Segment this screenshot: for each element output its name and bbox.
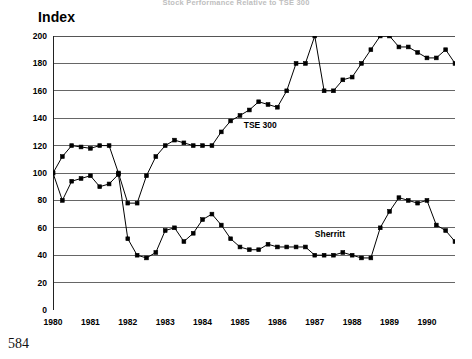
data-point: [79, 177, 83, 181]
x-axis-tick-label: 1987: [295, 317, 335, 327]
series-label-tse-300: TSE 300: [244, 120, 277, 130]
data-point: [229, 237, 233, 241]
data-point: [406, 45, 410, 49]
y-axis-tick-label: 60: [13, 223, 47, 233]
data-point: [369, 256, 373, 260]
data-point: [88, 146, 92, 150]
y-axis-tick-label: 180: [13, 58, 47, 68]
x-axis-tick-label: 1980: [33, 317, 73, 327]
data-point: [182, 240, 186, 244]
x-axis-tick-label: 1989: [370, 317, 410, 327]
data-point: [88, 174, 92, 178]
data-point: [238, 245, 242, 249]
data-point: [313, 253, 317, 257]
data-point: [416, 201, 420, 205]
page-number: 584: [8, 336, 29, 352]
data-point: [406, 199, 410, 203]
data-point: [257, 100, 261, 104]
data-point: [98, 185, 102, 189]
data-point: [70, 144, 74, 148]
data-point: [434, 223, 438, 227]
data-point: [145, 174, 149, 178]
data-point: [201, 144, 205, 148]
data-point: [191, 144, 195, 148]
data-point: [341, 78, 345, 82]
data-point: [70, 179, 74, 183]
data-point: [275, 245, 279, 249]
data-point: [210, 212, 214, 216]
data-point: [182, 141, 186, 145]
data-point: [60, 199, 64, 203]
data-point: [266, 242, 270, 246]
data-point: [117, 172, 121, 176]
plot-area: [53, 36, 455, 310]
data-point: [416, 51, 420, 55]
data-point: [107, 144, 111, 148]
y-axis-tick-label: 120: [13, 141, 47, 151]
chart-figure: Stock Performance Relative to TSE 300 In…: [0, 0, 472, 359]
data-point: [304, 62, 308, 66]
x-axis-tick-label: 1982: [108, 317, 148, 327]
series-label-sherritt: Sherritt: [315, 229, 345, 239]
data-point: [238, 114, 242, 118]
data-point: [397, 45, 401, 49]
data-point: [350, 75, 354, 79]
data-point: [107, 182, 111, 186]
data-point: [369, 48, 373, 52]
data-point: [154, 155, 158, 159]
data-point: [453, 240, 455, 244]
data-point: [201, 218, 205, 222]
data-point: [313, 36, 317, 38]
x-axis-tick-label: 1985: [220, 317, 260, 327]
y-axis-tick-label: 0: [13, 305, 47, 315]
y-axis-tick-label: 80: [13, 195, 47, 205]
data-point: [145, 256, 149, 260]
page-title: Stock Performance Relative to TSE 300: [0, 0, 472, 7]
data-point: [322, 89, 326, 93]
data-point: [53, 171, 55, 175]
y-axis-title: Index: [38, 9, 75, 25]
data-point: [247, 248, 251, 252]
data-point: [126, 201, 130, 205]
data-point: [332, 253, 336, 257]
data-point: [154, 251, 158, 255]
data-point: [285, 89, 289, 93]
y-axis-tick-label: 200: [13, 31, 47, 41]
data-point: [434, 56, 438, 60]
data-point: [378, 36, 382, 38]
data-point: [126, 237, 130, 241]
data-point: [135, 201, 139, 205]
y-axis-tick-label: 140: [13, 113, 47, 123]
data-point: [257, 248, 261, 252]
data-point: [60, 155, 64, 159]
data-point: [397, 196, 401, 200]
data-point: [388, 36, 392, 38]
x-axis-tick-label: 1981: [70, 317, 110, 327]
data-point: [294, 62, 298, 66]
x-axis-tick-label: 1988: [332, 317, 372, 327]
y-axis-tick-label: 160: [13, 86, 47, 96]
data-point: [135, 253, 139, 257]
x-axis-tick-label: 1990: [407, 317, 447, 327]
data-point: [444, 229, 448, 233]
data-point: [266, 103, 270, 107]
data-point: [210, 144, 214, 148]
data-point: [247, 108, 251, 112]
data-point: [444, 48, 448, 52]
data-point: [191, 231, 195, 235]
data-point: [79, 145, 83, 149]
data-point: [294, 245, 298, 249]
y-axis-tick-label: 20: [13, 278, 47, 288]
data-point: [453, 62, 455, 66]
data-point: [163, 144, 167, 148]
data-point: [275, 105, 279, 109]
data-point: [219, 130, 223, 134]
x-axis-tick-label: 1986: [257, 317, 297, 327]
data-point: [322, 253, 326, 257]
data-point: [163, 229, 167, 233]
data-point: [350, 253, 354, 257]
data-point: [98, 144, 102, 148]
data-point: [219, 223, 223, 227]
data-point: [341, 251, 345, 255]
data-point: [378, 226, 382, 230]
